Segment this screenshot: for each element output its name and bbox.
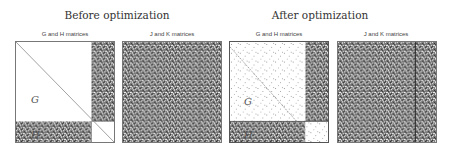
g-label: G [244,96,252,107]
sparsity-pattern-after-gh [230,42,328,142]
panel-before-gh-title: G and H matrices [42,31,89,37]
matrix-before-gh: G H [15,41,115,143]
sparsity-pattern-before-jk [123,42,221,142]
h-label: H [31,129,40,140]
group-after-title: After optimization [272,9,368,21]
matrix-after-jk [337,41,437,143]
panel-after-gh-title: G and H matrices [256,31,303,37]
sparsity-pattern-after-jk [338,42,436,142]
h-label: H [244,129,253,140]
panel-before-jk-title: J and K matrices [150,31,195,37]
group-before-title: Before optimization [64,9,169,21]
panel-after-jk-title: J and K matrices [364,31,409,37]
g-label: G [31,94,39,105]
matrix-before-jk [122,41,222,143]
sparsity-pattern-before-gh [16,42,114,142]
matrix-after-gh: G H [229,41,329,143]
